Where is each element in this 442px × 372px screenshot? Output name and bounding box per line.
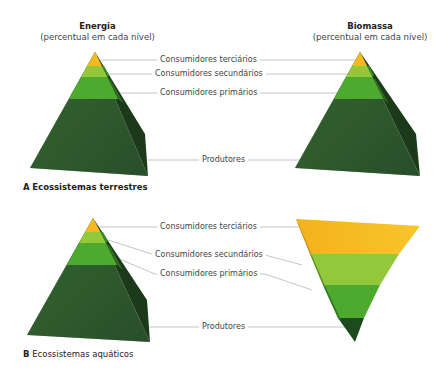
label-b-producers: Produtores: [199, 322, 248, 332]
label-a-primary: Consumidores primários: [157, 88, 260, 98]
tertiary-band: [87, 52, 102, 66]
caption-b-text: Ecossistemas aquáticos: [32, 349, 133, 359]
label-b-primary: Consumidores primários: [157, 269, 260, 279]
secondary-band: [310, 254, 399, 285]
caption-a-text: Ecossistemas terrestres: [32, 182, 147, 192]
label-a-tertiary: Consumidores terciários: [157, 55, 260, 65]
label-a-secondary: Consumidores secundários: [152, 69, 266, 79]
tertiary-band: [296, 219, 420, 254]
label-a-producers: Produtores: [199, 155, 248, 165]
biomass-pyramid-aquatic-inverted: [296, 219, 420, 342]
biomass-pyramid-terrestrial: [295, 52, 420, 176]
energy-pyramid-aquatic: [27, 218, 150, 342]
caption-a-letter: A: [23, 182, 30, 192]
label-b-secondary: Consumidores secundários: [152, 250, 266, 260]
caption-b: B Ecossistemas aquáticos: [23, 349, 133, 359]
label-b-tertiary: Consumidores terciários: [157, 222, 260, 232]
tertiary-band: [85, 218, 100, 232]
caption-a: A Ecossistemas terrestres: [23, 182, 148, 192]
producers-band: [338, 318, 364, 342]
caption-b-letter: B: [23, 349, 29, 359]
energy-pyramid-terrestrial: [30, 52, 148, 176]
